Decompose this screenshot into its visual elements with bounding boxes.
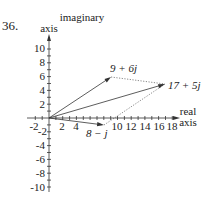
svg-text:14: 14	[140, 120, 152, 132]
svg-text:-10: -10	[30, 181, 45, 193]
y-axis-arrowhead-icon	[47, 34, 51, 41]
complex-plane-svg: imaginary axis real axis	[0, 0, 202, 212]
vector-9+6j	[49, 78, 109, 118]
y-axis-label-line1: imaginary	[60, 11, 105, 23]
svg-text:16: 16	[154, 120, 166, 132]
svg-text:10: 10	[112, 120, 124, 132]
svg-text:12: 12	[126, 120, 137, 132]
svg-text:-2: -2	[29, 120, 38, 132]
svg-text:-6: -6	[36, 153, 46, 165]
svg-text:-8: -8	[36, 167, 46, 179]
svg-text:10: 10	[34, 42, 46, 54]
problem-number: 36.	[2, 18, 18, 34]
arrowhead-icon	[105, 77, 112, 82]
vectors	[49, 77, 165, 126]
svg-text:2: 2	[59, 120, 65, 132]
complex-plane-figure: 36. imaginary axis real axis	[0, 0, 202, 212]
svg-text:-4: -4	[36, 139, 46, 151]
svg-text:2: 2	[40, 98, 46, 110]
edge-9+6j-to-17+5j	[111, 77, 165, 84]
arrowhead-icon	[97, 122, 104, 126]
x-axis-label-line2: axis	[179, 116, 197, 128]
y-tick-labels: 10 8 6 4 2 -2 -4 -6 -8 -10	[30, 42, 47, 193]
svg-text:18: 18	[167, 120, 179, 132]
vector-17+5j	[49, 85, 163, 118]
label-17+5j: 17 + 5j	[168, 79, 200, 91]
edge-8-j-to-17+5j	[104, 84, 165, 125]
label-9+6j: 9 + 6j	[110, 62, 137, 74]
svg-text:8: 8	[40, 56, 46, 68]
y-axis-label-line2: axis	[40, 22, 58, 34]
label-8-j: 8 − j	[86, 127, 107, 139]
arrowhead-icon	[158, 84, 165, 88]
svg-text:-2: -2	[38, 125, 47, 137]
svg-text:4: 4	[40, 84, 46, 96]
imaginary-axis	[47, 34, 51, 192]
svg-text:6: 6	[40, 70, 46, 82]
